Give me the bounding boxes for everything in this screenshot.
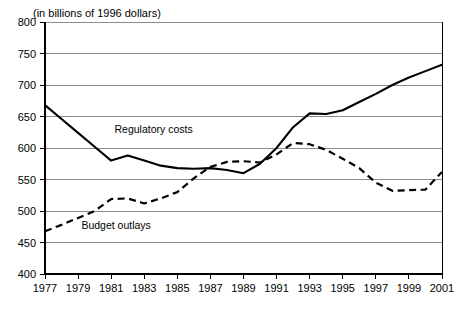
chart-background — [0, 0, 470, 309]
x-tick-label: 1983 — [132, 282, 156, 294]
y-tick-label: 400 — [18, 268, 36, 280]
x-tick-label: 1981 — [99, 282, 123, 294]
y-tick-label: 650 — [18, 111, 36, 123]
y-tick-label: 600 — [18, 142, 36, 154]
y-tick-label: 450 — [18, 237, 36, 249]
x-tick-label: 1993 — [297, 282, 321, 294]
chart-title: (in billions of 1996 dollars) — [33, 7, 161, 19]
y-axis-labels-group: 400450500550600650700750800 — [18, 16, 36, 280]
x-tick-label: 1987 — [198, 282, 222, 294]
x-tick-label: 2001 — [430, 282, 454, 294]
y-tick-label: 700 — [18, 79, 36, 91]
x-tick-label: 1991 — [264, 282, 288, 294]
x-tick-label: 1985 — [165, 282, 189, 294]
x-tick-label: 1995 — [331, 282, 355, 294]
y-tick-label: 550 — [18, 174, 36, 186]
x-tick-label: 1989 — [231, 282, 255, 294]
x-tick-label: 1977 — [33, 282, 57, 294]
y-tick-label: 750 — [18, 48, 36, 60]
y-tick-label: 500 — [18, 205, 36, 217]
chart-figure: 400450500550600650700750800 197719791981… — [0, 0, 470, 309]
series-annotation-regulatory-costs: Regulatory costs — [114, 123, 192, 135]
series-annotation-budget-outlays: Budget outlays — [81, 219, 150, 231]
x-tick-label: 1979 — [66, 282, 90, 294]
x-tick-label: 1997 — [364, 282, 388, 294]
chart-canvas: 400450500550600650700750800 197719791981… — [0, 0, 470, 309]
x-tick-label: 1999 — [397, 282, 421, 294]
